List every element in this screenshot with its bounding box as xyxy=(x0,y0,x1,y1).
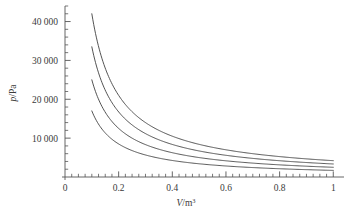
y-axis-title: p/Pa xyxy=(8,84,18,103)
x-axis-title-exponent: 3 xyxy=(192,197,195,204)
y-tick-label: 20 000 xyxy=(32,95,58,105)
x-tick-label: 0.8 xyxy=(274,183,286,193)
x-tick-label: 0.4 xyxy=(166,183,178,193)
x-tick-label: 1 xyxy=(331,183,336,193)
svg-text:p/Pa: p/Pa xyxy=(8,84,18,103)
y-tick-label: 40 000 xyxy=(32,17,58,27)
y-tick-label: 10 000 xyxy=(32,134,58,144)
y-axis-title-unit: /Pa xyxy=(8,84,18,97)
y-tick-label: 30 000 xyxy=(32,56,58,66)
x-tick-label: 0.6 xyxy=(220,183,232,193)
isotherm-chart: 10 00020 00030 00040 000 00.20.40.60.81 … xyxy=(0,0,354,219)
x-tick-label: 0 xyxy=(63,183,68,193)
x-tick-label: 0.2 xyxy=(113,183,125,193)
chart-figure: 10 00020 00030 00040 000 00.20.40.60.81 … xyxy=(0,0,354,219)
